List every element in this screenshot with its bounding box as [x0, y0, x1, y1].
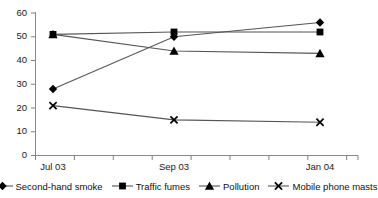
series-lines: [53, 23, 320, 123]
cross-marker-icon: [268, 180, 289, 192]
legend-item[interactable]: Second-hand smoke: [0, 180, 103, 192]
legend-item-label: Mobile phone masts: [292, 181, 377, 192]
chart-legend: Second-hand smokeTraffic fumesPollutionM…: [0, 176, 369, 196]
square-marker-icon: [171, 29, 178, 36]
series-line: [53, 106, 320, 123]
y-tick-label: 0: [0, 150, 27, 160]
y-tick-label: 20: [0, 103, 27, 113]
legend-item-label: Traffic fumes: [136, 181, 190, 192]
legend-item[interactable]: Mobile phone masts: [268, 180, 377, 192]
legend-item-label: Second-hand smoke: [16, 181, 103, 192]
diamond-marker-icon: [49, 85, 57, 93]
legend-item[interactable]: Pollution: [199, 180, 259, 192]
triangle-marker-icon: [199, 180, 220, 192]
y-tick-label: 30: [0, 79, 27, 89]
diamond-marker-icon: [0, 182, 6, 190]
series-line: [53, 34, 320, 53]
square-marker-icon: [112, 180, 133, 192]
diamond-marker-icon: [316, 18, 324, 26]
square-marker-icon: [317, 29, 324, 36]
x-tick-label: Jul 03: [23, 162, 83, 172]
x-tick-label: Jan 04: [290, 162, 350, 172]
y-tick-label: 40: [0, 55, 27, 65]
legend-item-label: Pollution: [223, 181, 259, 192]
x-axis-ticks: [36, 156, 359, 161]
square-marker-icon: [119, 183, 126, 190]
x-tick-label: Sep 03: [144, 162, 204, 172]
y-axis-ticks: [31, 13, 36, 156]
diamond-marker-icon: [0, 180, 13, 192]
series-line: [53, 32, 320, 34]
legend-item[interactable]: Traffic fumes: [112, 180, 190, 192]
y-tick-label: 60: [0, 8, 27, 18]
y-tick-label: 50: [0, 31, 27, 41]
y-tick-label: 10: [0, 126, 27, 136]
